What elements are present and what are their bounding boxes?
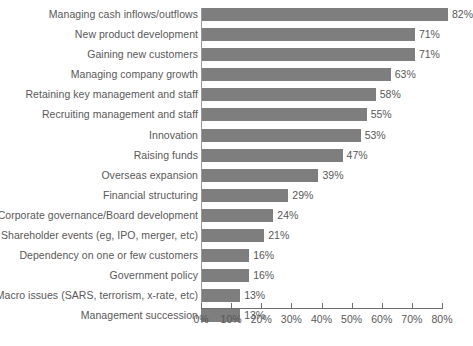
bar-track: 55% [201,108,367,121]
bar-track: 71% [201,28,415,41]
x-axis-tick-label: 80% [431,313,452,325]
bar-row: Managing company growth63% [0,68,468,88]
bar-value-label: 71% [415,48,440,61]
bar [201,28,415,41]
bar [201,209,273,222]
category-label: Overseas expansion [0,169,198,182]
bar-track: 71% [201,48,415,61]
x-axis-tick-label: 30% [281,313,302,325]
bar [201,149,343,162]
x-axis-tick [412,303,413,309]
x-axis-tick [382,303,383,309]
x-axis-tick-label: 10% [221,313,242,325]
x-axis-tick-label: 60% [371,313,392,325]
bar-value-label: 63% [391,68,416,81]
bar-track: 39% [201,169,318,182]
category-label: Managing cash inflows/outflows [0,8,198,21]
bar-row: Managing cash inflows/outflows82% [0,8,468,28]
bar-track: 53% [201,129,361,142]
category-label: Financial structuring [0,189,198,202]
category-label: Recruiting management and staff [0,108,198,121]
x-axis-tick [352,303,353,309]
category-label: Gaining new customers [0,48,198,61]
bar [201,289,240,302]
bar-track: 47% [201,149,343,162]
bar-value-label: 13% [240,289,265,302]
bar-value-label: 16% [249,249,274,262]
bar [201,48,415,61]
x-axis-tick [231,303,232,309]
category-label: Corporate governance/Board development [0,209,198,222]
category-label: Government policy [0,269,198,282]
bar-value-label: 21% [264,229,289,242]
bar [201,269,249,282]
category-label: Retaining key management and staff [0,88,198,101]
category-label: Shareholder events (eg, IPO, merger, etc… [0,229,198,242]
x-axis-tick-label: 0% [193,313,208,325]
x-axis-tick [291,303,292,309]
bar-track: 16% [201,249,249,262]
bar [201,189,288,202]
category-label: Macro issues (SARS, terrorism, x-rate, e… [0,289,198,302]
x-axis-tick-label: 50% [341,313,362,325]
bar-track: 63% [201,68,391,81]
category-label: Raising funds [0,149,198,162]
bar-row: Recruiting management and staff55% [0,108,468,128]
bar [201,108,367,121]
bar-row: Raising funds47% [0,149,468,169]
category-label: Dependency on one or few customers [0,249,198,262]
bar-row: Corporate governance/Board development24… [0,209,468,229]
bar-track: 24% [201,209,273,222]
x-axis-tick [261,303,262,309]
bar-row: Retaining key management and staff58% [0,88,468,108]
bar-value-label: 39% [318,169,343,182]
bar-track: 13% [201,289,240,302]
bar-value-label: 55% [367,108,392,121]
y-axis-line [201,8,202,308]
bar [201,68,391,81]
x-axis-tick [322,303,323,309]
bar [201,88,376,101]
bar [201,8,448,21]
x-axis-tick-label: 70% [401,313,422,325]
bar-value-label: 58% [376,88,401,101]
bar-row: Dependency on one or few customers16% [0,249,468,269]
bar-value-label: 82% [448,8,473,21]
x-axis-tick [442,303,443,309]
bar-value-label: 16% [249,269,274,282]
bar-value-label: 71% [415,28,440,41]
bar-row: Government policy16% [0,269,468,289]
category-label: New product development [0,28,198,41]
bar-value-label: 53% [361,129,386,142]
bar-row: Shareholder events (eg, IPO, merger, etc… [0,229,468,249]
bar-track: 82% [201,8,448,21]
bar-row: New product development71% [0,28,468,48]
bar [201,249,249,262]
bar-track: 21% [201,229,264,242]
bar-rows: Managing cash inflows/outflows82%New pro… [0,8,468,330]
bar-track: 16% [201,269,249,282]
category-label: Innovation [0,129,198,142]
category-label: Management succession [0,309,198,322]
bar-track: 58% [201,88,376,101]
bar-value-label: 29% [288,189,313,202]
x-axis-tick-label: 20% [251,313,272,325]
bar-row: Gaining new customers71% [0,48,468,68]
bar-row: Innovation53% [0,129,468,149]
bar-row: Financial structuring29% [0,189,468,209]
bar [201,129,361,142]
bar [201,169,318,182]
x-axis-tick [201,303,202,309]
category-label: Managing company growth [0,68,198,81]
bar-value-label: 47% [343,149,368,162]
bar-value-label: 24% [273,209,298,222]
x-axis-tick-label: 40% [311,313,332,325]
bar-row: Macro issues (SARS, terrorism, x-rate, e… [0,289,468,309]
bar-track: 29% [201,189,288,202]
bar [201,229,264,242]
bar-row: Overseas expansion39% [0,169,468,189]
